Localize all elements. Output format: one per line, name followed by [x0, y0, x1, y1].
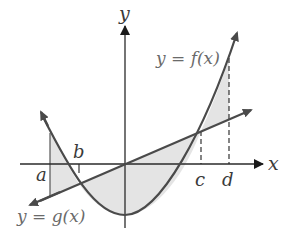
point-label-a: a	[36, 164, 47, 185]
point-label-b: b	[73, 141, 85, 162]
curve-g-left-end	[30, 192, 60, 205]
point-label-d: d	[222, 169, 234, 190]
curve-f-left-end	[41, 112, 48, 126]
area-between-curves-diagram: y x y = f(x) y = g(x) a b c d	[0, 0, 286, 235]
x-axis-label: x	[268, 152, 279, 174]
point-label-c: c	[195, 169, 205, 190]
y-axis-label: y	[118, 2, 130, 24]
g-curve-label: y = g(x)	[16, 206, 85, 226]
f-curve-label: y = f(x)	[155, 48, 220, 68]
